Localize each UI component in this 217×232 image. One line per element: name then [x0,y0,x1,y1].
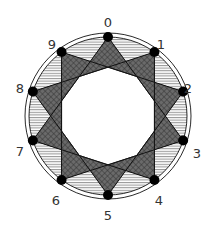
vertex-label-8: 8 [16,81,24,96]
vertex-label-7: 7 [16,144,24,159]
vertex-label-4: 4 [155,193,163,208]
vertex-label-1: 1 [157,37,165,52]
vertex-dot-4 [149,175,159,185]
vertex-dot-6 [57,175,67,185]
vertex-label-9: 9 [48,37,56,52]
vertex-dot-0 [103,32,113,42]
vertex-dot-9 [57,47,67,57]
vertex-label-5: 5 [104,208,112,223]
vertex-label-3: 3 [193,146,201,161]
vertex-label-6: 6 [52,193,60,208]
vertex-dot-3 [178,135,188,145]
vertex-dot-7 [28,135,38,145]
vertex-dot-5 [103,190,113,200]
vertex-label-2: 2 [184,81,192,96]
vertex-label-0: 0 [104,15,112,30]
decagram-diagram: 0123456789 [0,0,217,232]
vertex-dot-8 [28,87,38,97]
